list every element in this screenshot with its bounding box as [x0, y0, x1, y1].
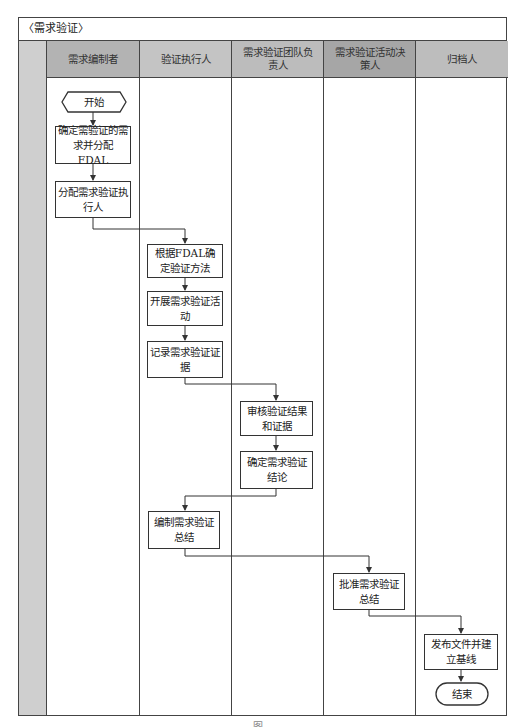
end-node: 结束 [436, 683, 488, 705]
process-compile-summary: 编制需求验证总结 [148, 511, 220, 549]
process-determine-method: 根据FDAL确定验证方法 [147, 244, 223, 278]
process-determine-conclusion: 确定需求验证结论 [240, 451, 313, 489]
process-assign-executor: 分配需求验证执行人 [55, 181, 131, 218]
process-record-evidence: 记录需求验证证据 [147, 341, 223, 378]
figure-caption: 图 [0, 720, 516, 727]
process-conduct-verification: 开展需求验证活动 [147, 291, 223, 326]
process-publish-baseline: 发布文件并建立基线 [424, 634, 498, 670]
process-review-results: 审核验证结果和证据 [240, 401, 313, 436]
process-determine-requirements: 确定需验证的需求并分配FDAL [55, 126, 131, 164]
process-approve-summary: 批准需求验证总结 [333, 573, 405, 610]
start-node: 开始 [62, 92, 126, 112]
